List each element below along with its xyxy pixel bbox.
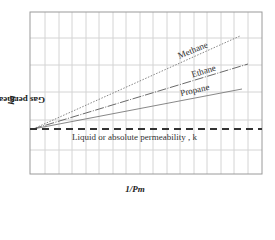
absolute-permeability-label: Liquid or absolute permeability , k [72,132,197,142]
x-axis-label: 1/Pm [100,184,170,194]
y-axis-label: Gas permeability, kg [4,30,18,170]
methane-line [33,36,240,129]
propane-line [33,89,242,129]
